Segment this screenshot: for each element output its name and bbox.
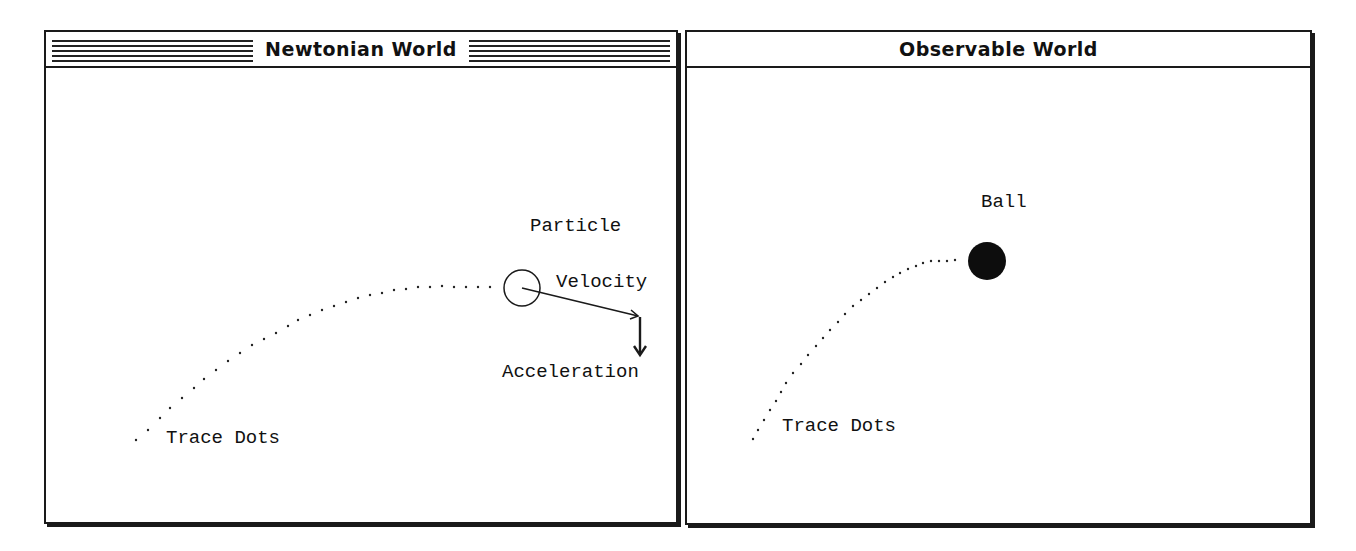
- observable-scene: [687, 68, 1310, 525]
- observable-world-canvas[interactable]: Ball Trace Dots: [687, 68, 1310, 523]
- trace-dots-label: Trace Dots: [782, 415, 896, 437]
- velocity-label: Velocity: [556, 271, 647, 293]
- observable-world-window[interactable]: Observable World: [685, 30, 1312, 525]
- ball-label: Ball: [981, 191, 1027, 213]
- acceleration-arrow-icon: [634, 317, 646, 355]
- newtonian-scene: [46, 68, 676, 524]
- trace-dots-label: Trace Dots: [166, 427, 280, 449]
- newtonian-world-window[interactable]: Newtonian World: [44, 30, 678, 524]
- acceleration-label: Acceleration: [502, 361, 639, 383]
- newtonian-world-titlebar[interactable]: Newtonian World: [46, 32, 676, 68]
- observable-world-titlebar[interactable]: Observable World: [687, 32, 1310, 68]
- trace-dots: [752, 259, 956, 440]
- window-title: Newtonian World: [253, 34, 469, 64]
- ball-icon: [968, 242, 1006, 280]
- particle-label: Particle: [530, 215, 621, 237]
- trace-dots: [135, 285, 491, 441]
- window-title: Observable World: [887, 34, 1110, 64]
- newtonian-world-canvas[interactable]: Particle Velocity Acceleration Trace Dot…: [46, 68, 676, 522]
